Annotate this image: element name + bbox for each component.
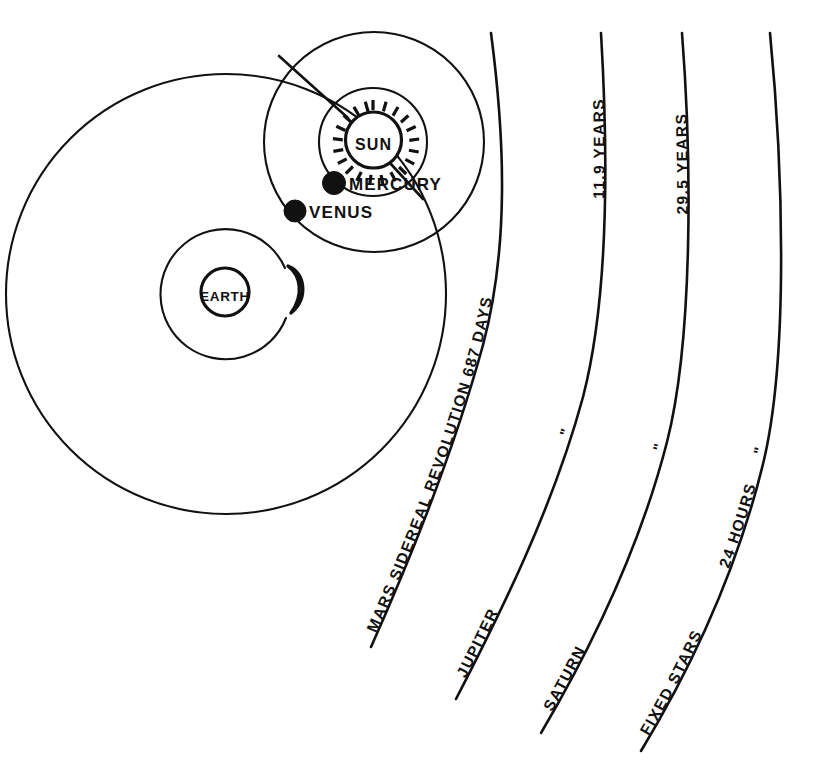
moon-group [288,266,303,313]
venus-group: VENUS [284,200,373,222]
mercury-label: MERCURY [349,175,442,194]
earth-group: EARTH [200,268,250,316]
fixed-stars-arc-label: FIXED STARS [636,627,705,738]
venus-label: VENUS [309,203,373,222]
jupiter-period-textpath: 11.9 YEARS [590,98,608,199]
fixed-stars-ditto-textpath: " [750,446,768,457]
moon-crescent-icon [288,266,303,313]
tychonic-system-diagram: SUN MERCURY VENUS EARTH MARS SIDEREAL RE… [0,0,834,764]
mercury-group: MERCURY [323,172,443,195]
saturn-ditto-mark: " [649,442,667,453]
saturn-orbit-arc [541,33,689,733]
fixed-stars-body-textpath: FIXED STARS [636,627,705,738]
jupiter-ditto-textpath: " [556,426,574,438]
sun-label: SUN [355,136,392,153]
solar-system-svg: SUN MERCURY VENUS EARTH MARS SIDEREAL RE… [0,0,834,764]
saturn-period-label: 29.5 YEARS [672,112,691,214]
mars-arc-label: MARS SIDEREAL REVOLUTION 687 DAYS [363,294,495,634]
fixed-stars-period-label: 24 HOURS [716,481,759,570]
saturn-arc-body-textpath: SATURN [540,643,589,714]
sun-ray-upper-left [279,56,348,118]
fixed-stars-orbit-arc [641,33,781,751]
venus-dot [284,200,306,222]
mercury-dot [323,172,346,195]
jupiter-period-label: 11.9 YEARS [590,98,608,199]
jupiter-arc-label: JUPITER [453,605,502,680]
sun-body-group: SUN [333,100,419,185]
earth-label: EARTH [200,289,250,304]
outer-orbit-arcs [371,33,781,751]
mars-arc-label-textpath: MARS SIDEREAL REVOLUTION 687 DAYS [363,294,495,634]
jupiter-arc-body-textpath: JUPITER [453,605,502,680]
saturn-ditto-textpath: " [649,442,667,453]
saturn-period-textpath: 29.5 YEARS [672,112,691,214]
fixed-stars-period-textpath: 24 HOURS [716,481,759,570]
fixed-stars-ditto-mark: " [750,446,768,457]
saturn-arc-label: SATURN [540,643,589,714]
jupiter-ditto-mark: " [556,426,574,438]
